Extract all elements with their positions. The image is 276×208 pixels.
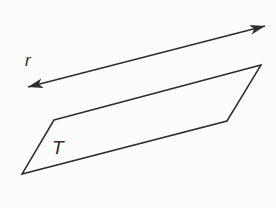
parallelogram-T-label: T bbox=[52, 137, 65, 158]
figure-background bbox=[0, 0, 276, 208]
geometry-figure: r T bbox=[0, 0, 276, 208]
